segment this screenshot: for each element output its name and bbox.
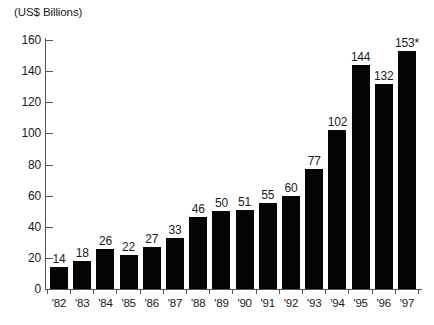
x-axis-tick [372,290,373,294]
x-axis-tick [302,290,303,294]
x-axis-tick [325,290,326,294]
bar-value-label: 51 [238,196,251,208]
y-axis-unit-caption: (US$ Billions) [14,6,82,18]
bar-value-label: 144 [351,51,370,63]
y-axis-tick [46,227,53,228]
bar-chart: (US$ Billions) 020406080100120140160 141… [0,0,434,325]
bar-slot: 144 [352,45,370,289]
y-axis-tick [46,71,53,72]
x-axis-tick [163,290,164,294]
bar [212,211,230,289]
bar-value-label: 132 [374,70,393,82]
y-axis-tick-label-wrap: 60 [0,190,41,202]
y-axis-tick-label: 80 [0,159,41,171]
bar-slot: 22 [120,235,138,289]
y-axis-tick-label-wrap: 100 [0,127,41,139]
bar-slot: 102 [328,110,346,289]
bar [166,238,184,289]
bar [96,249,114,289]
bar-value-label: 18 [76,247,89,259]
bar-slot: 60 [282,176,300,289]
bar [120,255,138,289]
bar-slot: 46 [189,197,207,289]
y-axis-tick [46,102,53,103]
bar-value-label: 50 [215,197,228,209]
x-axis-tick [209,290,210,294]
y-axis-tick-label: 40 [0,221,41,233]
x-axis-tick [70,290,71,294]
bar-slot: 77 [305,149,323,289]
y-axis-tick-label-wrap: 140 [0,65,41,77]
y-axis-tick-label-wrap: 0 [0,283,41,295]
x-axis-tick [418,290,419,294]
bar [236,210,254,289]
y-axis-tick-label: 0 [0,283,41,295]
x-axis-tick [140,290,141,294]
bar-slot: 33 [166,218,184,289]
x-axis-tick [256,290,257,294]
bar-value-label: 55 [261,189,274,201]
bar-value-label: 60 [285,182,298,194]
bar-slot: 55 [259,183,277,289]
x-axis-line [45,289,422,290]
y-axis-tick-label-wrap: 80 [0,159,41,171]
y-axis-tick [46,196,53,197]
bar-value-label: 22 [122,241,135,253]
bar [305,169,323,289]
bar [282,196,300,289]
x-axis-tick [348,290,349,294]
bar [328,130,346,289]
y-axis-tick [46,165,53,166]
bar [73,261,91,289]
y-axis-tick-label-wrap: 160 [0,34,41,46]
x-axis-tick [232,290,233,294]
x-axis-tick [93,290,94,294]
bar-value-label: 26 [99,235,112,247]
x-axis-tick [395,290,396,294]
x-axis-tick-label: '97 [392,297,422,310]
x-axis-tick [279,290,280,294]
y-axis-tick-label: 100 [0,127,41,139]
bar-value-label: 46 [192,203,205,215]
bar [375,84,393,289]
bar-slot: 18 [73,241,91,289]
bar-slot: 132 [375,64,393,289]
x-axis-tick [116,290,117,294]
y-axis-tick-label: 140 [0,65,41,77]
bar [259,203,277,289]
bar-value-label: 14 [53,253,66,265]
bar-value-label: 153* [395,37,419,49]
y-axis-tick-label: 60 [0,190,41,202]
bar-value-label: 27 [145,233,158,245]
bar-slot: 14 [50,247,68,289]
y-axis-tick-label: 120 [0,96,41,108]
bar-slot: 51 [236,190,254,289]
bar-value-label: 102 [328,116,347,128]
bar-slot: 153* [398,31,416,289]
bar [352,65,370,289]
y-axis-tick [46,40,53,41]
bar-slot: 26 [96,229,114,289]
y-axis-tick-label-wrap: 120 [0,96,41,108]
bar-slot: 50 [212,191,230,289]
y-axis-tick-label: 160 [0,34,41,46]
y-axis-tick [46,133,53,134]
y-axis-tick-label: 20 [0,252,41,264]
bar [50,267,68,289]
bar [398,51,416,289]
x-axis-tick [186,290,187,294]
bar-value-label: 33 [169,224,182,236]
y-axis-tick-label-wrap: 20 [0,252,41,264]
bar-value-label: 77 [308,155,321,167]
x-axis-tick [47,290,48,294]
y-axis-tick-label-wrap: 40 [0,221,41,233]
bar [189,217,207,289]
bar [143,247,161,289]
bar-slot: 27 [143,227,161,289]
